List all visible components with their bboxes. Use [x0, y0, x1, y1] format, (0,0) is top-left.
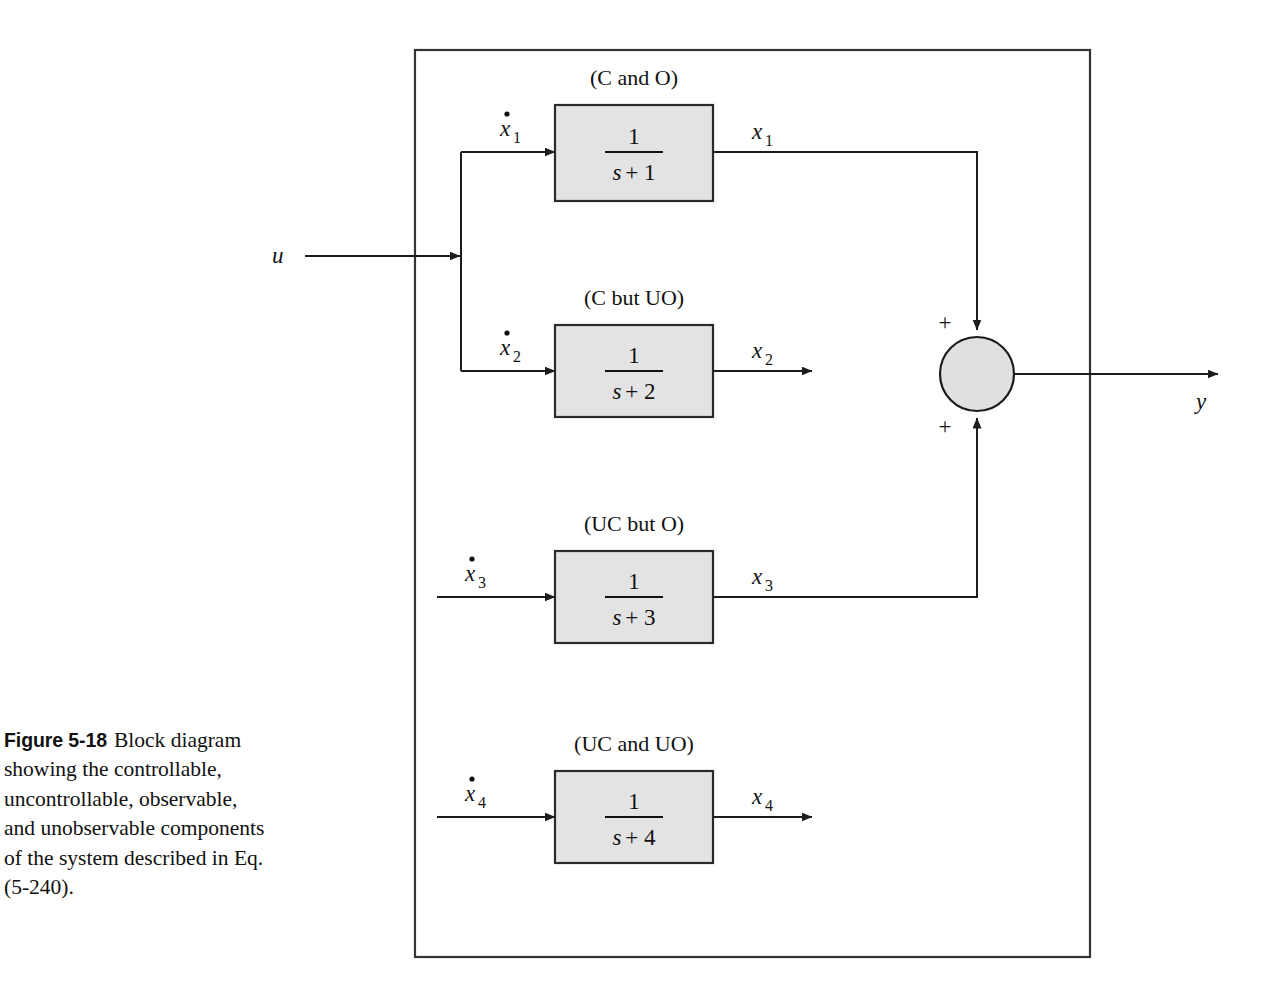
- summing-junction-circle[interactable]: [940, 337, 1014, 411]
- figure-caption-text: Block diagram showing the controllable, …: [4, 728, 264, 899]
- block-4-input-sub: 4: [478, 794, 486, 811]
- block-3-input-label: x 3: [464, 556, 486, 591]
- input-u-label: u: [272, 243, 284, 268]
- system-boundary-rect: [415, 50, 1090, 957]
- block-3-group: (UC but O) 1 s+ 3 x 3 x 3: [437, 418, 977, 643]
- block-4-input-label: x 4: [464, 776, 486, 811]
- block-3-output-sub: 3: [765, 577, 773, 594]
- block-4-den-s: s: [612, 825, 621, 850]
- block-1-input-sub: 1: [513, 129, 521, 146]
- block-1-input-var: x: [499, 116, 511, 141]
- block-4-group: (UC and UO) 1 s+ 4 x 4 x 4: [437, 731, 812, 863]
- block-1-output-sub: 1: [765, 132, 773, 149]
- block-2-tag: (C but UO): [584, 285, 684, 310]
- block-3-output-label: x 3: [751, 564, 773, 594]
- block-3-output-var: x: [751, 564, 763, 589]
- output-y-label: y: [1194, 389, 1207, 414]
- block-4-numerator: 1: [628, 789, 640, 814]
- block-3-numerator: 1: [628, 569, 640, 594]
- block-2-group: (C but UO) 1 s+ 2 x 2 x 2: [499, 285, 812, 417]
- figure-page: u (C and O) 1 s+ 1 x 1: [0, 0, 1261, 991]
- block-4-tag: (UC and UO): [574, 731, 694, 756]
- block-2-input-label: x 2: [499, 330, 521, 365]
- block-1-numerator: 1: [628, 124, 640, 149]
- block-4-output-var: x: [751, 784, 763, 809]
- block-3-den-s: s: [612, 605, 621, 630]
- block-3-denominator: s+ 3: [612, 605, 655, 630]
- block-2-output-label: x 2: [751, 338, 773, 368]
- block-1-output-wire-to-sum: [713, 152, 977, 330]
- block-1-denominator: s+ 1: [612, 160, 655, 185]
- block-2-den-s: s: [612, 379, 621, 404]
- block-1-output-var: x: [751, 119, 763, 144]
- block-3-input-var: x: [464, 561, 476, 586]
- block-2-den-rest: + 2: [625, 379, 655, 404]
- input-u-signal: u: [272, 243, 460, 268]
- block-4-output-label: x 4: [751, 784, 773, 814]
- figure-number-label: Figure 5-18: [4, 729, 107, 751]
- output-y-signal: y: [1014, 374, 1218, 414]
- block-1-output-label: x 1: [751, 119, 773, 149]
- block-2-input-var: x: [499, 335, 511, 360]
- block-1-group: (C and O) 1 s+ 1 x 1 x 1: [499, 65, 977, 330]
- block-4-den-rest: + 4: [625, 825, 656, 850]
- block-2-output-var: x: [751, 338, 763, 363]
- block-3-tag: (UC but O): [584, 511, 684, 536]
- block-1-den-rest: + 1: [625, 160, 655, 185]
- block-1-input-label: x 1: [499, 111, 521, 146]
- block-1-den-s: s: [612, 160, 621, 185]
- block-3-den-rest: + 3: [625, 605, 655, 630]
- block-2-input-sub: 2: [513, 348, 521, 365]
- sum-sign-top: +: [939, 310, 952, 335]
- sum-sign-bottom: +: [939, 414, 952, 439]
- figure-caption: Figure 5-18Block diagram showing the con…: [4, 726, 266, 902]
- block-4-output-sub: 4: [765, 797, 773, 814]
- block-4-input-var: x: [464, 781, 476, 806]
- block-4-denominator: s+ 4: [612, 825, 656, 850]
- block-1-tag: (C and O): [590, 65, 678, 90]
- block-2-numerator: 1: [628, 343, 640, 368]
- block-2-denominator: s+ 2: [612, 379, 655, 404]
- block-2-output-sub: 2: [765, 351, 773, 368]
- block-3-input-sub: 3: [478, 574, 486, 591]
